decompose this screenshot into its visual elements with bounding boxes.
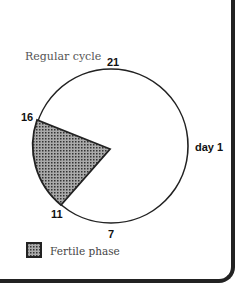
label-day-7: 7 <box>108 228 114 240</box>
legend-swatch-icon <box>27 243 41 257</box>
label-day-21: 21 <box>107 56 119 68</box>
label-day-11: 11 <box>51 208 63 220</box>
cycle-diagram: Regular cycle 21 16 day 1 11 7 Fertile p… <box>0 0 244 290</box>
cycle-chart: 21 16 day 1 11 7 <box>0 0 244 290</box>
label-day-16: 16 <box>21 111 33 123</box>
label-day-1: day 1 <box>195 141 223 153</box>
legend-fertile-label: Fertile phase <box>50 245 120 257</box>
